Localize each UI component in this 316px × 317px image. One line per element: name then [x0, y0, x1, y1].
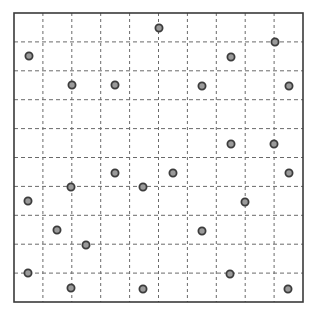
dot-marker [111, 81, 118, 88]
dot-marker [155, 24, 162, 31]
dot-marker [270, 140, 277, 147]
dot-marker [67, 183, 74, 190]
dot-marker [198, 82, 205, 89]
dot-marker [82, 241, 89, 248]
dot-marker [67, 284, 74, 291]
dot-marker [227, 53, 234, 60]
dot-marker [284, 285, 291, 292]
dot-marker [139, 285, 146, 292]
dot-marker [227, 140, 234, 147]
dot-marker [68, 81, 75, 88]
dot-marker [53, 226, 60, 233]
dot-marker [271, 38, 278, 45]
dot-marker [25, 52, 32, 59]
dot-marker [285, 169, 292, 176]
dot-marker [24, 269, 31, 276]
dot-marker [111, 169, 118, 176]
dot-marker [241, 198, 248, 205]
dot-marker [24, 197, 31, 204]
dot-marker [198, 227, 205, 234]
dot-marker [226, 270, 233, 277]
dot-marker [285, 82, 292, 89]
dot-grid-diagram [0, 0, 316, 317]
dot-marker [139, 183, 146, 190]
dot-marker [169, 169, 176, 176]
